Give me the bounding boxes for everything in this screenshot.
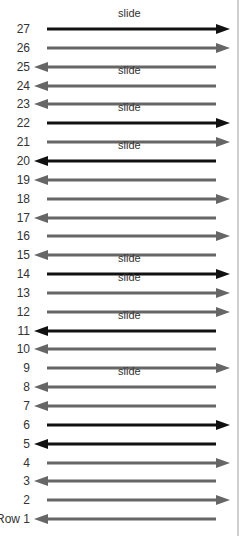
right-border (237, 0, 239, 536)
row-27: 27slide (0, 22, 236, 40)
slide-label: slide (118, 7, 141, 19)
row-16: 16 (0, 229, 236, 247)
row-label: 23 (17, 97, 30, 111)
arrow-right-icon (34, 42, 230, 54)
arrow-right-icon (34, 193, 230, 205)
row-22: 22slide (0, 116, 236, 134)
row-4: 4 (0, 456, 236, 474)
arrow-left-icon (34, 155, 230, 167)
slide-label: slide (118, 101, 141, 113)
row-19: 19 (0, 173, 236, 191)
arrow-left-icon (34, 513, 230, 525)
row-label: 19 (17, 173, 30, 187)
row-label: 17 (17, 211, 30, 225)
row-label: 4 (23, 456, 30, 470)
row-label: 7 (23, 399, 30, 413)
slide-label: slide (118, 309, 141, 321)
row-label: 27 (17, 22, 30, 36)
arrow-right-icon (34, 419, 230, 431)
arrow-left-icon (34, 325, 230, 337)
row-8: 8slide (0, 380, 236, 398)
row-label: 26 (17, 41, 30, 55)
row-3: 3 (0, 474, 236, 492)
row-label: 15 (17, 248, 30, 262)
row-20: 20slide (0, 154, 236, 172)
row-label: 9 (23, 361, 30, 375)
slide-label: slide (118, 252, 141, 264)
row-label: 18 (17, 192, 30, 206)
arrow-left-icon (34, 381, 230, 393)
slide-label: slide (118, 139, 141, 151)
arrow-right-icon (34, 457, 230, 469)
slide-label: slide (118, 64, 141, 76)
arrow-left-icon (34, 438, 230, 450)
row-label: 13 (17, 286, 30, 300)
row-label: 16 (17, 229, 30, 243)
row-label: Row 1 (0, 512, 30, 526)
row-6: 6 (0, 418, 236, 436)
row-label: 2 (23, 493, 30, 507)
slide-label: slide (118, 365, 141, 377)
arrow-left-icon (34, 212, 230, 224)
row-2: 2 (0, 493, 236, 511)
row-label: 3 (23, 474, 30, 488)
row-label: 5 (23, 437, 30, 451)
row-row-1: Row 1 (0, 512, 236, 530)
row-5: 5 (0, 437, 236, 455)
row-label: 24 (17, 79, 30, 93)
row-direction-diagram: 27slide262524slide2322slide2120slide1918… (0, 0, 244, 536)
row-label: 8 (23, 380, 30, 394)
row-17: 17 (0, 211, 236, 229)
row-label: 6 (23, 418, 30, 432)
row-11: 11slide (0, 324, 236, 342)
arrow-right-icon (34, 230, 230, 242)
arrow-left-icon (34, 343, 230, 355)
row-13: 13slide (0, 286, 236, 304)
arrow-left-icon (34, 174, 230, 186)
row-label: 12 (17, 305, 30, 319)
row-label: 11 (18, 324, 30, 338)
row-label: 20 (17, 154, 30, 168)
row-24: 24slide (0, 79, 236, 97)
row-label: 25 (17, 60, 30, 74)
row-label: 10 (17, 342, 30, 356)
arrow-right-icon (34, 494, 230, 506)
arrow-right-icon (34, 117, 230, 129)
arrow-left-icon (34, 80, 230, 92)
row-label: 14 (17, 267, 30, 281)
row-18: 18 (0, 192, 236, 210)
arrow-right-icon (34, 287, 230, 299)
row-10: 10 (0, 342, 236, 360)
row-7: 7 (0, 399, 236, 417)
row-26: 26 (0, 41, 236, 59)
arrow-left-icon (34, 400, 230, 412)
arrow-right-icon (34, 23, 230, 35)
row-label: 22 (17, 116, 30, 130)
row-label: 21 (17, 135, 30, 149)
arrow-left-icon (34, 475, 230, 487)
slide-label: slide (118, 271, 141, 283)
